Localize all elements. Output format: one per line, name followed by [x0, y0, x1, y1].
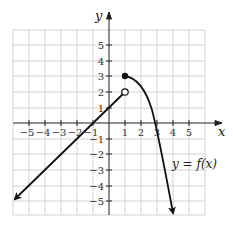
svg-text:2: 2 — [98, 87, 104, 98]
svg-text:2: 2 — [138, 127, 144, 138]
x-tick-labels: −5 −4 −3 −2 −1 1 2 3 4 5 — [20, 127, 193, 138]
svg-text:5: 5 — [186, 127, 192, 138]
function-label: y = f(x) — [171, 157, 217, 171]
svg-text:1: 1 — [122, 127, 128, 138]
svg-text:−2: −2 — [89, 149, 104, 160]
svg-text:−1: −1 — [89, 134, 104, 145]
svg-text:−5: −5 — [89, 196, 104, 207]
curved-piece — [125, 76, 173, 213]
svg-text:−5: −5 — [20, 127, 35, 138]
svg-text:3: 3 — [98, 71, 104, 82]
svg-text:−3: −3 — [89, 165, 104, 176]
svg-text:−4: −4 — [36, 127, 51, 138]
svg-text:−4: −4 — [89, 181, 104, 192]
y-axis-label: y — [94, 8, 103, 23]
svg-text:5: 5 — [98, 40, 104, 51]
svg-text:−3: −3 — [52, 127, 67, 138]
y-axis-arrow-icon — [107, 12, 112, 19]
svg-text:4: 4 — [170, 127, 176, 138]
closed-endpoint-dot — [122, 73, 128, 79]
function-graph: −5 −4 −3 −2 −1 1 2 3 4 5 1 2 3 4 5 −1 −2… — [0, 0, 233, 227]
open-endpoint-circle — [122, 89, 128, 95]
svg-text:4: 4 — [98, 56, 104, 67]
x-axis-label: x — [218, 124, 226, 139]
axes — [13, 12, 222, 215]
